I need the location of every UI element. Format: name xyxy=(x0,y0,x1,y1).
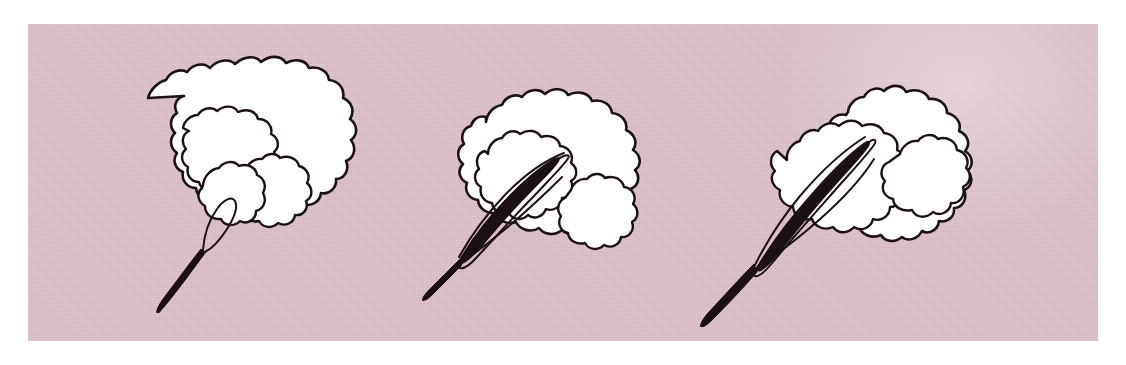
leaf-series-drawing xyxy=(28,24,1098,341)
panel-stage-1 xyxy=(148,57,356,313)
figure-root xyxy=(0,0,1126,365)
petiole-hairline-2 xyxy=(423,264,461,300)
petiole-hairline-1 xyxy=(159,252,204,312)
panel-stage-3 xyxy=(701,86,972,327)
petiole-3 xyxy=(701,264,757,327)
panel-stage-2 xyxy=(423,89,640,300)
illustration-plate xyxy=(28,24,1098,341)
